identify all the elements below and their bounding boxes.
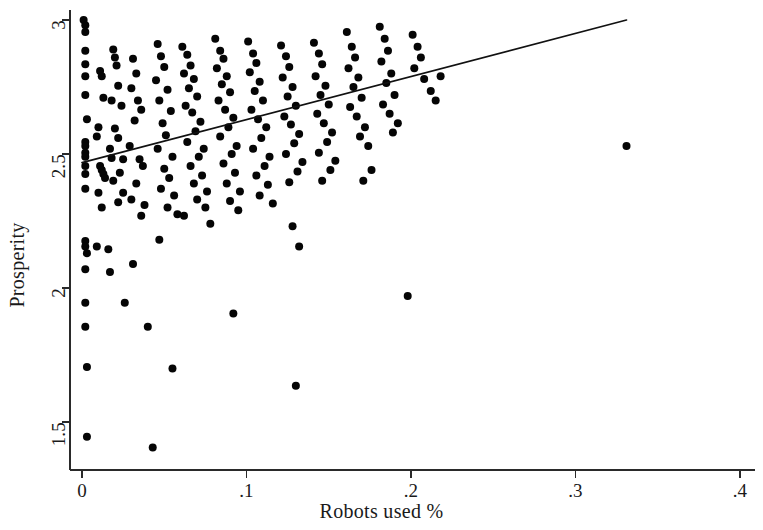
x-tick-label: .2 — [404, 481, 419, 500]
data-point — [98, 204, 106, 212]
x-tick-label: .4 — [733, 481, 748, 500]
data-point — [178, 43, 186, 51]
data-point — [410, 64, 418, 72]
y-axis-title: Prosperity — [4, 0, 30, 530]
data-point — [277, 41, 285, 49]
data-point — [315, 50, 323, 58]
data-point — [185, 84, 193, 92]
data-point — [229, 309, 237, 317]
data-point — [256, 78, 264, 86]
data-point — [326, 166, 334, 174]
data-point — [219, 55, 227, 63]
data-point — [246, 68, 254, 76]
data-point — [201, 204, 209, 212]
data-point — [216, 47, 224, 55]
data-point — [167, 107, 175, 115]
data-point — [295, 130, 303, 138]
y-tick-label: 1.5 — [49, 422, 68, 446]
data-point — [129, 55, 137, 63]
data-point — [257, 134, 265, 142]
data-point — [81, 185, 89, 193]
data-point — [168, 153, 176, 161]
data-point — [196, 118, 204, 126]
data-point — [219, 159, 227, 167]
data-point — [173, 210, 181, 218]
data-point — [159, 119, 167, 127]
data-point — [119, 155, 127, 163]
data-point — [114, 198, 122, 206]
data-point — [127, 196, 135, 204]
data-point — [290, 139, 298, 147]
data-point — [187, 62, 195, 70]
data-point — [315, 149, 323, 157]
data-point — [321, 82, 329, 90]
axes-group — [70, 10, 755, 470]
data-point — [94, 189, 102, 197]
data-point — [183, 51, 191, 59]
data-point — [157, 52, 165, 60]
data-point — [344, 64, 352, 72]
data-point — [93, 133, 101, 141]
data-point — [279, 74, 287, 82]
data-point — [170, 192, 178, 200]
data-point — [193, 92, 201, 100]
data-point — [137, 106, 145, 114]
x-tick-label: .1 — [239, 481, 254, 500]
data-point — [81, 28, 89, 36]
data-point — [269, 200, 277, 208]
data-point — [104, 245, 112, 253]
data-point — [81, 323, 89, 331]
data-point — [211, 35, 219, 43]
data-point — [190, 75, 198, 83]
data-point — [282, 150, 290, 158]
data-point — [409, 31, 417, 39]
data-point — [182, 102, 190, 110]
data-point — [236, 188, 244, 196]
data-point — [183, 138, 191, 146]
data-point — [381, 35, 389, 43]
data-point — [298, 158, 306, 166]
data-point — [387, 70, 395, 78]
data-point — [81, 153, 89, 161]
y-tick-label: 2.5 — [49, 154, 68, 178]
data-point — [414, 43, 422, 51]
data-point — [328, 129, 336, 137]
data-point — [266, 153, 274, 161]
data-point — [354, 74, 362, 82]
data-point — [193, 196, 201, 204]
data-point — [391, 91, 399, 99]
data-point — [320, 119, 328, 127]
regression-line-group — [82, 20, 627, 163]
data-point — [81, 170, 89, 178]
data-point — [198, 171, 206, 179]
data-point — [358, 94, 366, 102]
data-point — [121, 299, 129, 307]
data-point — [154, 40, 162, 48]
data-point — [155, 236, 163, 244]
data-point — [144, 323, 152, 331]
data-point — [361, 123, 369, 131]
data-point — [131, 117, 139, 125]
data-point — [119, 189, 127, 197]
data-point — [81, 91, 89, 99]
data-point — [226, 197, 234, 205]
data-point — [264, 181, 272, 189]
data-point — [437, 72, 445, 80]
data-point — [127, 84, 135, 92]
data-point — [318, 60, 326, 68]
data-point — [349, 83, 357, 91]
data-point — [81, 72, 89, 80]
y-tick-label: 3 — [49, 20, 68, 30]
data-point — [351, 54, 359, 62]
data-point — [386, 110, 394, 118]
data-point — [117, 102, 125, 110]
data-point — [218, 80, 226, 88]
data-point — [81, 60, 89, 68]
data-point — [432, 96, 440, 104]
data-point — [284, 92, 292, 100]
data-point — [318, 177, 326, 185]
data-point — [247, 106, 255, 114]
data-point — [223, 72, 231, 80]
data-point — [394, 119, 402, 127]
data-point — [259, 96, 267, 104]
